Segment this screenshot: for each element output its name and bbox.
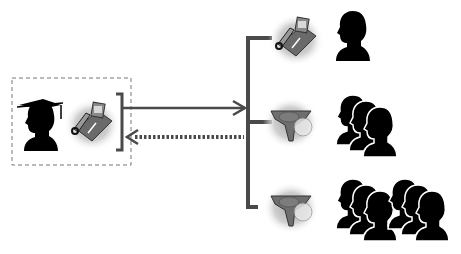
source-group [12,78,131,165]
group-of-6-silhouette-icon [336,179,449,241]
endpoint-2 [263,95,397,157]
person-silhouette-icon [336,11,370,61]
desk-phone-icon [268,14,324,66]
conference-speakerphone-icon [263,97,319,149]
group-of-3-silhouette-icon [336,95,397,157]
conference-speakerphone-icon [263,182,319,234]
endpoint-1 [268,11,370,66]
conference-diagram [0,0,461,254]
incoming-dotted-arrow [127,130,244,144]
graduate-silhouette-icon [17,99,63,151]
desk-phone-icon [64,99,120,151]
endpoint-3 [263,179,449,241]
outgoing-arrow [122,101,245,115]
